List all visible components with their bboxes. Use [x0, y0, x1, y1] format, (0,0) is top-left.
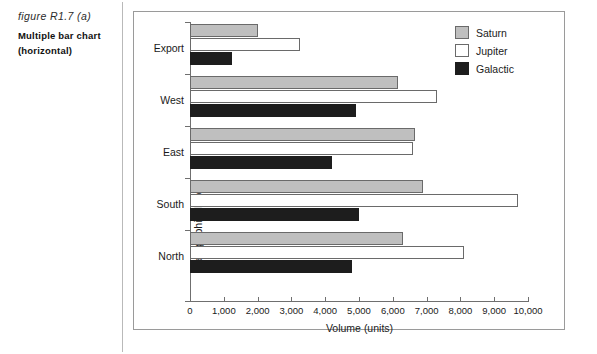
- legend-label-jupiter: Jupiter: [476, 45, 508, 57]
- x-axis-ticklabel: 8,000: [449, 305, 473, 316]
- legend-label-galactic: Galactic: [476, 63, 514, 75]
- legend-swatch-icon: [455, 26, 469, 39]
- x-axis-ticklabel: 9,000: [482, 305, 506, 316]
- y-axis-label-south: South: [124, 198, 184, 210]
- legend-swatch-icon: [455, 62, 469, 75]
- x-axis-tick: [291, 297, 292, 302]
- x-axis-ticklabel: 2,000: [246, 305, 270, 316]
- bar-export-galactic: [190, 52, 232, 65]
- x-axis-ticklabel: 5,000: [347, 305, 371, 316]
- x-axis-tick: [427, 297, 428, 302]
- figure-title: Multiple bar chart (horizontal): [18, 28, 118, 58]
- figure-page: figure R1.7 (a) Multiple bar chart (hori…: [0, 0, 597, 354]
- x-axis-tick: [325, 297, 326, 302]
- x-axis-tick: [359, 297, 360, 302]
- chart-legend: Saturn Jupiter Galactic: [455, 24, 514, 78]
- bar-east-saturn: [190, 128, 415, 141]
- bar-east-galactic: [190, 156, 332, 169]
- x-axis-tick: [460, 297, 461, 302]
- x-axis-ticklabel: 0: [187, 305, 192, 316]
- figure-title-line-2: (horizontal): [18, 43, 118, 58]
- bar-south-galactic: [190, 208, 359, 221]
- y-axis-labels: Export West East South North: [122, 22, 184, 302]
- bar-group-north: [190, 230, 528, 282]
- bar-group-east: [190, 126, 528, 178]
- x-axis-tick: [258, 297, 259, 302]
- legend-item-galactic: Galactic: [455, 60, 514, 77]
- x-axis-tick: [494, 297, 495, 302]
- figure-id: figure R1.7 (a): [18, 10, 118, 22]
- legend-item-saturn: Saturn: [455, 24, 514, 41]
- x-axis-ticklabel: 10,000: [513, 305, 542, 316]
- x-axis-tick: [528, 297, 529, 302]
- bar-group-south: [190, 178, 528, 230]
- y-axis-label-north: North: [124, 250, 184, 262]
- bar-north-saturn: [190, 232, 403, 245]
- bar-group-west: [190, 74, 528, 126]
- bar-east-jupiter: [190, 142, 413, 155]
- y-axis-label-export: Export: [124, 42, 184, 54]
- bar-south-jupiter: [190, 194, 518, 207]
- bar-west-jupiter: [190, 90, 437, 103]
- figure-title-line-1: Multiple bar chart: [18, 28, 118, 43]
- bar-west-galactic: [190, 104, 356, 117]
- x-axis-title: Volume (units): [190, 322, 529, 334]
- bar-export-jupiter: [190, 38, 300, 51]
- x-axis-ticklabel: 3,000: [280, 305, 304, 316]
- x-axis-ticklabel: 6,000: [381, 305, 405, 316]
- bar-north-galactic: [190, 260, 352, 273]
- legend-item-jupiter: Jupiter: [455, 42, 514, 59]
- x-axis-tick: [224, 297, 225, 302]
- x-axis-ticklabel: 1,000: [212, 305, 236, 316]
- bar-north-jupiter: [190, 246, 464, 259]
- figure-caption: figure R1.7 (a) Multiple bar chart (hori…: [18, 10, 118, 58]
- bar-export-saturn: [190, 24, 258, 37]
- legend-label-saturn: Saturn: [476, 27, 507, 39]
- y-axis-label-east: East: [124, 146, 184, 158]
- bar-west-saturn: [190, 76, 398, 89]
- x-axis-ticklabel: 4,000: [313, 305, 337, 316]
- x-axis-ticklabel: 7,000: [415, 305, 439, 316]
- y-axis-label-west: West: [124, 94, 184, 106]
- x-axis-tick: [393, 297, 394, 302]
- bar-south-saturn: [190, 180, 423, 193]
- legend-swatch-icon: [455, 44, 469, 57]
- x-axis-tick: [190, 297, 191, 302]
